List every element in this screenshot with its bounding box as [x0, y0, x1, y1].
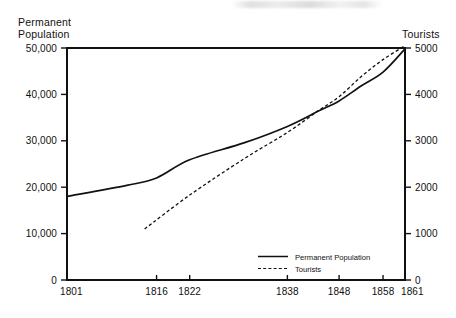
chart-canvas: Permanent Population Tourists 010,00020,…	[0, 0, 456, 318]
y2-axis-tick-labels: 010002000300040005000	[415, 43, 438, 286]
x-axis-tick-label: 1861	[401, 286, 424, 297]
y-axis-title-line1: Permanent	[18, 16, 71, 28]
y-axis-title-line2: Population	[18, 28, 70, 40]
x-axis-tick-label: 1848	[328, 286, 351, 297]
legend-label-permanent-population: Permanent Population	[295, 253, 370, 262]
y2-axis-tick-label: 2000	[415, 182, 438, 193]
y2-axis-tick-label: 5000	[415, 43, 438, 54]
y2-axis-tick-label: 0	[415, 275, 421, 286]
x-axis-tick-label: 1816	[145, 286, 168, 297]
plot-frame	[67, 48, 405, 280]
y2-axis-title: Tourists	[402, 28, 440, 40]
x-axis-tick-label: 1858	[372, 286, 395, 297]
x-axis-tick-label: 1801	[60, 286, 83, 297]
series-line-tourists	[145, 46, 405, 229]
series-line-permanent-population	[67, 49, 405, 197]
chart-legend: Permanent Population Tourists	[258, 253, 370, 274]
y-axis-tick-label: 0	[51, 275, 57, 286]
x-axis-tick-label: 1838	[276, 286, 299, 297]
y-axis-tick-label: 10,000	[26, 228, 58, 239]
y-axis-tick-label: 40,000	[26, 89, 58, 100]
x-axis-tick-label: 1822	[178, 286, 201, 297]
legend-label-tourists: Tourists	[295, 265, 321, 274]
y2-axis-tick-label: 3000	[415, 135, 438, 146]
y-axis-tick-label: 30,000	[26, 135, 58, 146]
y-axis-tick-label: 50,000	[26, 43, 58, 54]
y2-axis-tick-label: 4000	[415, 89, 438, 100]
x-axis-tick-labels: 1801181618221838184818581861	[60, 286, 424, 297]
legend-entry-permanent-population: Permanent Population	[258, 253, 370, 262]
chart-figure: Permanent Population Tourists 010,00020,…	[0, 0, 456, 318]
y-axis-tick-label: 20,000	[26, 182, 58, 193]
y-axis-tick-labels: 010,00020,00030,00040,00050,000	[26, 43, 58, 286]
legend-entry-tourists: Tourists	[258, 265, 321, 274]
y2-axis-tick-label: 1000	[415, 228, 438, 239]
